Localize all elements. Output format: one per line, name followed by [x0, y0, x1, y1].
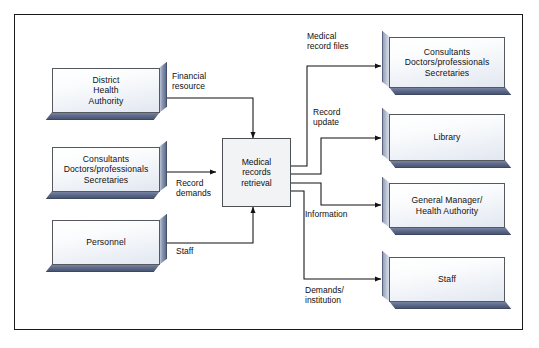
- box-side-face: [159, 141, 167, 192]
- flow-label-medical-record-files: Medical record files: [307, 31, 349, 51]
- flow-label-record-demands: Record demands: [176, 178, 211, 198]
- box-bottom-face: [46, 191, 160, 199]
- entity-label: District Health Authority: [86, 75, 127, 106]
- entity-personnel[interactable]: Personnel: [52, 220, 160, 265]
- entity-consultants-left[interactable]: Consultants Doctors/professionals Secret…: [52, 147, 160, 192]
- box-bottom-face: [46, 264, 160, 272]
- box-bottom-face: [389, 87, 511, 95]
- process-medical-records-retrieval[interactable]: Medical records retrieval: [222, 138, 291, 207]
- flow-label-record-update: Record update: [313, 107, 340, 127]
- box-front-face: Library: [389, 114, 505, 161]
- diagram-canvas: District Health Authority Consultants Do…: [0, 0, 539, 348]
- box-bottom-face: [46, 112, 160, 120]
- entity-label: Consultants Doctors/professionals Secret…: [61, 154, 152, 185]
- entity-label: Personnel: [83, 237, 129, 247]
- flow-line-financial-resource: [161, 98, 253, 138]
- box-front-face: Personnel: [52, 220, 160, 265]
- box-bottom-face: [389, 227, 511, 235]
- flow-label-information: Information: [305, 209, 348, 219]
- flow-line-record-update: [291, 138, 381, 174]
- entity-staff-right[interactable]: Staff: [389, 257, 505, 302]
- entity-label: Consultants Doctors/professionals Secret…: [402, 47, 493, 78]
- entity-label: Library: [431, 132, 464, 142]
- entity-consultants-right[interactable]: Consultants Doctors/professionals Secret…: [389, 37, 505, 88]
- box-side-face: [159, 214, 167, 265]
- flow-line-staff: [161, 207, 253, 243]
- flow-label-financial-resource: Financial resource: [172, 71, 206, 91]
- entity-label: General Manager/ Health Authority: [409, 195, 486, 215]
- entity-library[interactable]: Library: [389, 114, 505, 161]
- flow-line-demands-institution: [291, 191, 381, 279]
- box-side-face: [159, 62, 167, 113]
- box-front-face: District Health Authority: [52, 68, 160, 113]
- entity-general-manager[interactable]: General Manager/ Health Authority: [389, 183, 505, 228]
- flow-label-demands-institution: Demands/ institution: [305, 285, 344, 305]
- box-bottom-face: [389, 301, 511, 309]
- entity-label: Staff: [435, 274, 459, 284]
- box-front-face: Staff: [389, 257, 505, 302]
- entity-district-health-authority[interactable]: District Health Authority: [52, 68, 160, 113]
- flow-label-staff: Staff: [176, 246, 193, 256]
- box-front-face: General Manager/ Health Authority: [389, 183, 505, 228]
- box-front-face: Consultants Doctors/professionals Secret…: [389, 37, 505, 88]
- process-label: Medical records retrieval: [241, 157, 272, 188]
- box-front-face: Consultants Doctors/professionals Secret…: [52, 147, 160, 192]
- box-bottom-face: [389, 160, 511, 168]
